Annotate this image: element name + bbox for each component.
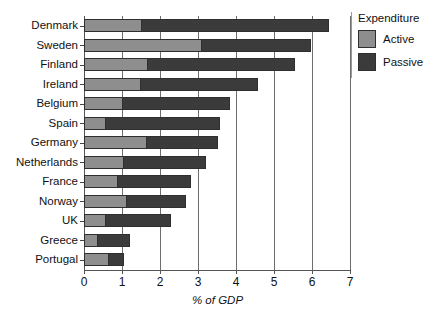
legend-label-passive: Passive [383,56,423,68]
y-axis-tick [80,143,84,144]
y-axis-label-france: France [42,175,78,188]
x-axis-tick-7 [350,270,351,274]
y-axis-tick [80,182,84,183]
legend-swatch-active [358,30,376,48]
legend-swatch-passive [358,53,376,71]
legend-item-active: Active [358,30,438,48]
bar-segment-active [84,78,140,91]
bar-segment-active [84,175,117,188]
plot-area [84,16,350,270]
gridline-4 [236,16,237,270]
bar-segment-active [84,117,105,130]
bar-segment-passive [140,78,258,91]
y-axis-tick [80,201,84,202]
gridline-6 [312,16,313,270]
bar-segment-active [84,195,126,208]
y-axis-label-belgium: Belgium [36,97,78,110]
bar-row [84,175,191,188]
bar-segment-passive [141,19,329,32]
x-axis-line [84,270,351,271]
bar-segment-active [84,97,122,110]
y-axis-labels: DenmarkSwedenFinlandIrelandBelgiumSpainG… [0,16,78,270]
y-axis-tick [80,65,84,66]
x-axis-ticklabel-4: 4 [226,275,246,289]
x-axis-tick-5 [274,270,275,274]
bar-segment-active [84,156,123,169]
y-axis-label-netherlands: Netherlands [16,156,78,169]
x-axis-tick-4 [236,270,237,274]
x-axis-ticklabel-3: 3 [188,275,208,289]
y-axis-label-uk: UK [62,214,78,227]
legend-item-passive: Passive [358,53,438,71]
bar-segment-passive [117,175,191,188]
bar-row [84,234,130,247]
bar-segment-passive [126,195,186,208]
y-axis-tick [80,104,84,105]
bar-segment-active [84,214,105,227]
bar-segment-active [84,234,97,247]
bar-segment-passive [105,214,172,227]
x-axis-ticklabel-5: 5 [264,275,284,289]
bar-segment-active [84,58,147,71]
bar-row [84,117,220,130]
x-axis-ticklabel-1: 1 [112,275,132,289]
y-axis-label-denmark: Denmark [31,19,78,32]
bar-row [84,19,329,32]
legend-divider [351,12,352,78]
x-axis-ticklabel-7: 7 [340,275,360,289]
y-axis-tick [80,123,84,124]
legend-items: ActivePassive [358,30,438,71]
bar-segment-passive [146,136,218,149]
x-axis-ticklabel-2: 2 [150,275,170,289]
y-axis-tick [80,45,84,46]
y-axis-label-germany: Germany [31,136,78,149]
y-axis-label-spain: Spain [49,117,78,130]
bar-segment-active [84,136,146,149]
x-axis-title: % of GDP [84,294,351,306]
bar-row [84,78,258,91]
bar-row [84,97,230,110]
bar-segment-active [84,39,201,52]
y-axis-tick [80,260,84,261]
bar-segment-passive [105,117,220,130]
bar-segment-passive [122,97,230,110]
legend-label-active: Active [383,33,414,45]
bar-segment-passive [97,234,129,247]
x-axis-tick-1 [122,270,123,274]
bar-row [84,253,124,266]
x-axis-tick-6 [312,270,313,274]
bar-segment-passive [123,156,206,169]
bar-row [84,156,206,169]
bar-row [84,58,295,71]
y-axis-tick [80,26,84,27]
y-axis-label-greece: Greece [40,234,78,247]
y-axis-label-portugal: Portugal [35,253,78,266]
bar-segment-active [84,19,141,32]
y-axis-tick [80,84,84,85]
x-axis-ticklabel-0: 0 [74,275,94,289]
gridline-5 [274,16,275,270]
y-axis-label-finland: Finland [40,58,78,71]
x-axis-tick-2 [160,270,161,274]
bar-row [84,214,171,227]
bar-row [84,136,218,149]
bar-row [84,39,311,52]
y-axis-tick [80,162,84,163]
y-axis-label-sweden: Sweden [36,39,78,52]
bar-row [84,195,186,208]
legend-title: Expenditure [358,12,438,24]
y-axis-label-ireland: Ireland [43,78,78,91]
chart-container: DenmarkSwedenFinlandIrelandBelgiumSpainG… [0,0,439,320]
y-axis-tick [80,221,84,222]
x-axis-tick-3 [198,270,199,274]
x-axis-tick-0 [84,270,85,274]
bar-segment-passive [201,39,311,52]
y-axis-tick [80,240,84,241]
bar-segment-passive [108,253,124,266]
bar-segment-passive [147,58,295,71]
bar-segment-active [84,253,108,266]
y-axis-label-norway: Norway [39,195,78,208]
x-axis-ticklabel-6: 6 [302,275,322,289]
legend: Expenditure ActivePassive [358,12,438,76]
